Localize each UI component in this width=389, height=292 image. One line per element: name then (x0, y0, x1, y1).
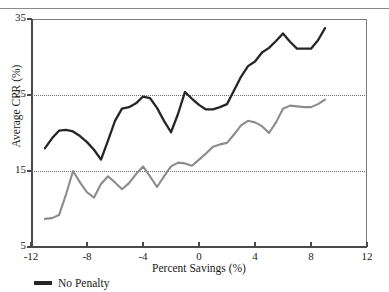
x-tick-mark--4 (142, 242, 143, 247)
x-tick-label-12: 12 (362, 250, 373, 262)
x-tick-mark-0 (198, 242, 199, 247)
y-tick-mark-35 (27, 18, 32, 19)
gridline-y-15 (31, 171, 367, 172)
gridline-y-25 (31, 95, 367, 96)
y-tick-label-35: 35 (0, 12, 26, 23)
x-tick-label-0: 0 (196, 250, 202, 262)
x-tick-label--8: -8 (82, 250, 91, 262)
y-axis-title: Average CPR (%) (10, 46, 22, 166)
header-rule (0, 8, 389, 9)
legend: No Penalty (34, 277, 109, 289)
y-tick-mark-15 (27, 170, 32, 171)
x-axis-title: Percent Savings (%) (31, 262, 367, 274)
y-tick-label-5: 5 (0, 240, 26, 251)
x-tick-label-8: 8 (308, 250, 314, 262)
x-tick-mark-12 (366, 242, 367, 247)
plot-area (31, 19, 367, 247)
figure-container: 5152535 -12-8-404812 Average CPR (%) Per… (0, 0, 389, 292)
x-tick-mark--12 (30, 242, 31, 247)
x-tick-label--12: -12 (24, 250, 39, 262)
x-tick-label-4: 4 (252, 250, 258, 262)
x-tick-mark-4 (254, 242, 255, 247)
legend-swatch-no-penalty (34, 281, 52, 285)
x-tick-label--4: -4 (138, 250, 147, 262)
y-tick-mark-25 (27, 94, 32, 95)
x-tick-mark--8 (86, 242, 87, 247)
legend-label-no-penalty: No Penalty (58, 277, 109, 289)
y-axis-line (31, 19, 33, 247)
x-tick-mark-8 (310, 242, 311, 247)
